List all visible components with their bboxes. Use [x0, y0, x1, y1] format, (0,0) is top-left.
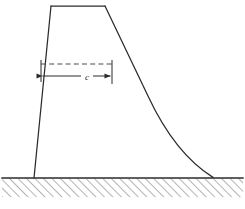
ground-hatching [2, 179, 243, 198]
upstream-face-line [34, 6, 51, 178]
figure-root: c [0, 0, 245, 209]
dam-section-diagram: c [0, 0, 245, 209]
dimension-label-c: c [85, 72, 89, 82]
downstream-face-curve [105, 6, 213, 177]
dam-outline [34, 6, 213, 178]
crest-width-dimension: c [43, 72, 111, 82]
